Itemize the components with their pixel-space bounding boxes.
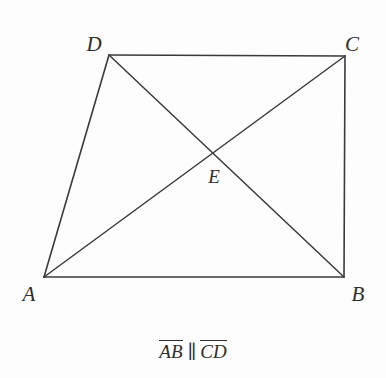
- diagonal-DB-line: [109, 55, 344, 277]
- quadrilateral-diagonals: [44, 55, 345, 277]
- caption-parallel-symbol: ∥: [183, 340, 201, 363]
- point-label-E: E: [208, 167, 220, 186]
- vertex-label-A: A: [23, 284, 36, 305]
- caption-segment-ab: AB: [159, 340, 182, 362]
- side-CD-line: [109, 55, 345, 56]
- caption-segment-cd: CD: [200, 340, 226, 362]
- side-DA-line: [44, 55, 109, 277]
- vertex-label-D: D: [86, 34, 101, 55]
- figure-caption: AB∥CD: [0, 340, 386, 363]
- vertex-label-B: B: [352, 284, 365, 305]
- vertex-label-C: C: [345, 34, 359, 55]
- quadrilateral-diagram: [0, 0, 386, 378]
- geometry-figure: D C A B E AB∥CD: [0, 0, 386, 378]
- side-BC-line: [344, 56, 345, 277]
- diagonal-AC-line: [44, 56, 345, 277]
